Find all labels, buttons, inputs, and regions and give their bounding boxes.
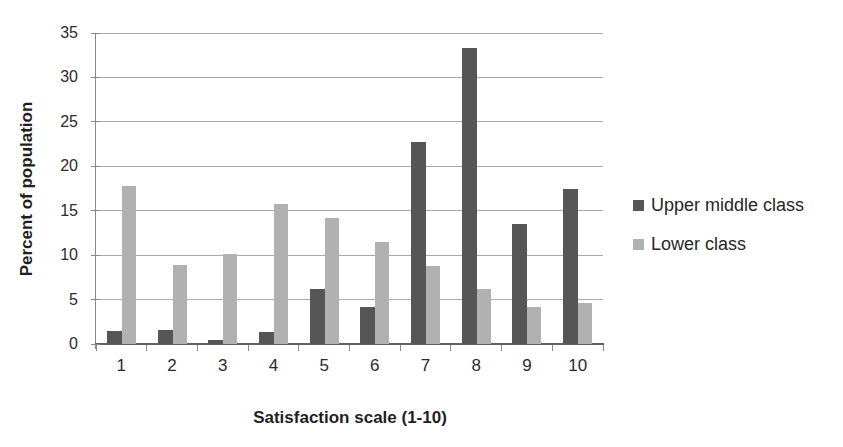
- legend-swatch-icon-upper-middle-class: [633, 200, 644, 211]
- y-axis-tick-10: [91, 255, 100, 256]
- x-axis-tick-3: [248, 345, 249, 351]
- y-axis-line: [95, 33, 96, 349]
- bar-upper-middle-class-5: [310, 289, 325, 344]
- bar-lower-class-1: [122, 186, 136, 344]
- gridline-15: [96, 210, 603, 211]
- x-axis-tick-2: [197, 345, 198, 351]
- x-axis-tick-9: [552, 345, 553, 351]
- y-axis-tick-35: [91, 33, 100, 34]
- x-axis-tick-10: [603, 345, 604, 351]
- legend-label-lower-class: Lower class: [651, 235, 746, 253]
- x-axis-tick-5: [349, 345, 350, 351]
- bar-upper-middle-class-2: [158, 330, 173, 344]
- legend-item-lower-class: Lower class: [633, 235, 804, 253]
- x-tick-label-10: 10: [568, 356, 587, 376]
- x-tick-label-3: 3: [218, 356, 227, 376]
- legend: Upper middle classLower class: [633, 196, 804, 274]
- x-tick-label-8: 8: [472, 356, 481, 376]
- x-axis-title: Satisfaction scale (1-10): [253, 408, 447, 428]
- x-tick-label-1: 1: [117, 356, 126, 376]
- bar-upper-middle-class-6: [360, 307, 375, 344]
- bar-lower-class-3: [223, 254, 237, 344]
- y-tick-label-15: 15: [0, 202, 78, 220]
- bar-upper-middle-class-4: [259, 332, 274, 344]
- y-tick-label-0: 0: [0, 335, 78, 353]
- legend-swatch-icon-lower-class: [633, 239, 644, 250]
- y-axis-tick-30: [91, 77, 100, 78]
- bar-upper-middle-class-10: [563, 189, 578, 344]
- gridline-20: [96, 166, 603, 167]
- legend-item-upper-middle-class: Upper middle class: [633, 196, 804, 214]
- x-tick-label-7: 7: [421, 356, 430, 376]
- x-axis-tick-8: [501, 345, 502, 351]
- y-axis-tick-5: [91, 299, 100, 300]
- x-tick-label-6: 6: [370, 356, 379, 376]
- bar-lower-class-8: [477, 289, 491, 344]
- bar-chart: Percent of population Satisfaction scale…: [0, 0, 843, 447]
- x-tick-label-9: 9: [522, 356, 531, 376]
- bar-upper-middle-class-7: [411, 142, 426, 344]
- bar-lower-class-10: [578, 303, 592, 344]
- y-tick-label-20: 20: [0, 157, 78, 175]
- bar-upper-middle-class-3: [208, 340, 223, 344]
- bar-lower-class-6: [375, 242, 389, 344]
- x-tick-label-4: 4: [269, 356, 278, 376]
- x-axis-tick-6: [400, 345, 401, 351]
- legend-label-upper-middle-class: Upper middle class: [651, 196, 804, 214]
- y-axis-tick-20: [91, 166, 100, 167]
- gridline-30: [96, 77, 603, 78]
- bar-lower-class-2: [173, 265, 187, 344]
- x-axis-tick-7: [450, 345, 451, 351]
- y-axis-tick-25: [91, 121, 100, 122]
- x-tick-label-5: 5: [319, 356, 328, 376]
- x-tick-label-2: 2: [167, 356, 176, 376]
- x-axis-tick-0: [96, 345, 97, 351]
- y-axis-tick-15: [91, 210, 100, 211]
- x-axis-tick-1: [146, 345, 147, 351]
- bar-lower-class-9: [527, 307, 541, 344]
- gridline-25: [96, 121, 603, 122]
- y-tick-label-5: 5: [0, 291, 78, 309]
- bar-upper-middle-class-8: [462, 48, 477, 344]
- y-tick-label-10: 10: [0, 246, 78, 264]
- y-tick-label-35: 35: [0, 24, 78, 42]
- x-axis-tick-4: [298, 345, 299, 351]
- plot-area: [96, 33, 603, 344]
- bar-lower-class-4: [274, 204, 288, 344]
- y-tick-label-30: 30: [0, 68, 78, 86]
- y-tick-label-25: 25: [0, 113, 78, 131]
- bar-upper-middle-class-1: [107, 331, 122, 344]
- bar-upper-middle-class-9: [512, 224, 527, 344]
- gridline-35: [96, 33, 603, 34]
- bar-lower-class-7: [426, 266, 440, 344]
- bar-lower-class-5: [325, 218, 339, 344]
